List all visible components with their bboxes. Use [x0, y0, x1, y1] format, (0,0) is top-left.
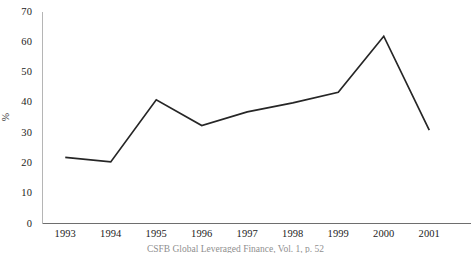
x-tick-label-1994: 1994	[88, 228, 134, 239]
x-tick-label-1996: 1996	[179, 228, 225, 239]
x-tick-label-1998: 1998	[270, 228, 316, 239]
x-tick-label-2000: 2000	[361, 228, 407, 239]
y-tick-label: 60	[6, 37, 32, 48]
x-tick-label-1993: 1993	[42, 228, 88, 239]
x-tick-label-1995: 1995	[133, 228, 179, 239]
y-tick-label: 10	[6, 188, 32, 199]
y-tick-label: 70	[6, 7, 32, 18]
y-tick-label: 0	[6, 219, 32, 230]
y-tick-label: 20	[6, 158, 32, 169]
y-tick-label: 40	[6, 97, 32, 108]
chart-plot-area	[0, 0, 471, 253]
x-tick-label-2001: 2001	[406, 228, 452, 239]
source-caption: CSFB Global Leveraged Finance, Vol. 1, p…	[0, 244, 471, 253]
x-tick-label-1997: 1997	[224, 228, 270, 239]
y-tick-label: 30	[6, 128, 32, 139]
y-tick-label: 50	[6, 67, 32, 78]
y-axis-title: %	[1, 113, 11, 121]
data-series-line	[65, 36, 429, 162]
x-tick-label-1999: 1999	[315, 228, 361, 239]
line-chart-figure: % 70 60 50 40 30 20 10 0 1993 1994 1995 …	[0, 0, 471, 253]
